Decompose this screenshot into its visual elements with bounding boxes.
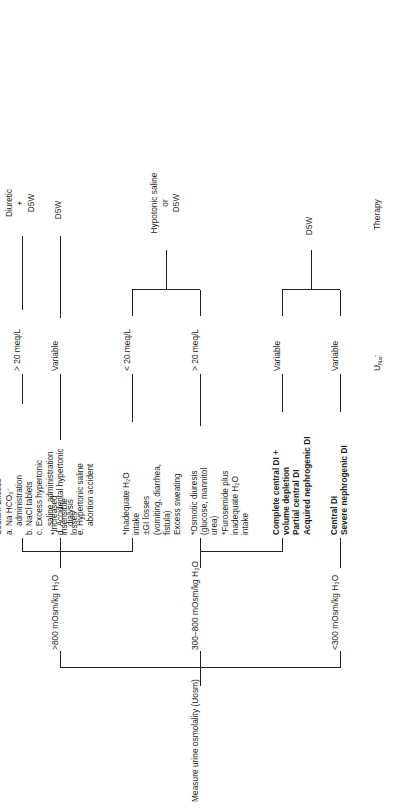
high-split-bus [22, 551, 132, 552]
rotated-figure-wrapper: Measure urine osmolality (Uosm) >800 mOs… [0, 0, 399, 808]
una-line-osmotic [200, 374, 201, 426]
therapy-value-insensible: D5W [54, 190, 64, 230]
therapy-line-sodium-excess [22, 236, 23, 310]
therapy-merge-top-out [166, 250, 167, 290]
therapy-merge-top-lower [200, 290, 201, 316]
insensible-losses-block: *Increased insensible losses [50, 445, 81, 535]
mid-branch-line [200, 651, 201, 668]
una-row-label: UNa: [372, 355, 383, 371]
therapy-row-label: Therapy [372, 199, 382, 230]
mid-split-bus [200, 551, 282, 552]
una-line-low-di [340, 374, 341, 412]
therapy-merge-top-upper [132, 290, 133, 316]
high-split-stem [60, 552, 61, 568]
una-value-mid-di: Variable [272, 341, 282, 371]
insensible-connector [60, 538, 61, 552]
una-line-mid-di [282, 374, 283, 412]
low-cause-connector [340, 538, 341, 568]
una-row-label-sub: Na [376, 357, 383, 365]
low-branch-label: <300 mOsm/kg H₂O [330, 575, 340, 650]
root-title: Measure urine osmolality (Uosm) [190, 679, 200, 802]
mid-branch-label: 300–800 mOsm/kg H₂O [190, 561, 200, 650]
water-loss-block: *Inadequate H₂O intake ±GI losses (vomit… [122, 427, 183, 535]
mid-split-stem [200, 552, 201, 568]
sodium-excess-item-a: a. Na HCO₃⁻ administration [5, 407, 25, 535]
una-value-osmotic: > 20 meq/L [190, 329, 200, 371]
una-row-label-u: U [372, 365, 382, 371]
una-value-water-loss: < 20 meq/L [122, 329, 132, 371]
sodium-excess-block: Sodium Excess a. Na HCO₃⁻ administration… [0, 407, 97, 535]
therapy-line-insensible [60, 236, 61, 318]
una-value-sodium-excess: > 20 meq/L [12, 329, 22, 371]
low-di-block: Central DI Severe nephrogenic DI [330, 417, 350, 535]
therapy-value-sodium-excess: Diuretic + D5W [4, 176, 37, 230]
water-loss-connector [132, 538, 133, 552]
therapy-merge-bottom-upper [282, 290, 283, 316]
low-branch-line [340, 651, 341, 668]
therapy-value-hypotonic: Hypotonic saline or D5W [149, 160, 182, 246]
mid-di-block: Complete central DI + volume depletion P… [272, 417, 313, 535]
una-line-insensible [60, 374, 61, 440]
una-value-low-di: Variable [330, 341, 340, 371]
sodium-excess-heading: Sodium Excess [0, 407, 4, 535]
una-line-water-loss [132, 374, 133, 422]
mid-osmotic-connector [200, 538, 201, 552]
sodium-excess-connector [22, 538, 23, 552]
therapy-merge-bottom-lower [340, 290, 341, 316]
high-branch-label: >800 mOsm/kg H₂O [50, 575, 60, 650]
sodium-excess-item-b: b. NaCl tablets [25, 407, 35, 535]
una-value-insensible: Variable [50, 341, 60, 371]
therapy-merge-bottom-out [311, 250, 312, 290]
therapy-value-low-group: D5W [305, 206, 315, 246]
high-branch-line [60, 651, 61, 668]
osmotic-diuresis-block: *Osmotic diuresis (glucose, mannitol ure… [190, 431, 251, 535]
flowchart-canvas: Measure urine osmolality (Uosm) >800 mOs… [0, 0, 399, 808]
mid-di-connector [282, 538, 283, 552]
root-stem-line [200, 668, 201, 686]
una-line-sodium-excess [22, 374, 23, 404]
